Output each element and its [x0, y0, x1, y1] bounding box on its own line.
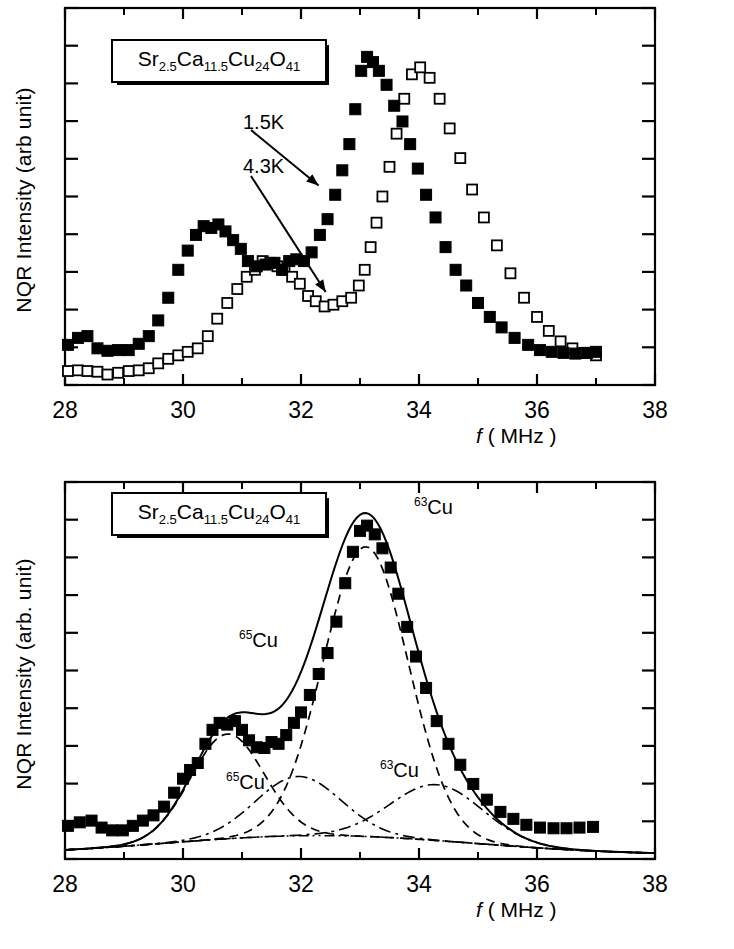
axis-frame-bottom [65, 482, 655, 859]
data-point-filled [74, 817, 85, 828]
data-point-filled [173, 264, 184, 275]
panel-bottom: NQR Intensity (arb. unit) 283032343638 S… [0, 474, 734, 944]
data-point-open [385, 162, 395, 172]
x-tick-label: 30 [170, 397, 196, 423]
x-tick-labels-top: 283032343638 [52, 397, 668, 423]
x-tick-label: 32 [288, 397, 314, 423]
data-point-open [392, 129, 402, 139]
data-point-open [73, 365, 83, 375]
data-point-open [63, 366, 73, 376]
data-point-filled [389, 100, 400, 111]
data-point-filled [192, 758, 203, 769]
x-tick-label: 36 [524, 871, 550, 897]
data-point-open [144, 363, 154, 373]
data-point-filled [322, 648, 333, 659]
data-point-filled [588, 821, 599, 832]
sample-formula-bottom: Sr2.5Ca11.5Cu24O41 [138, 500, 300, 527]
data-point-filled [296, 707, 307, 718]
data-point-open [92, 367, 102, 377]
data-point-filled [421, 682, 432, 693]
data-point-filled [340, 578, 351, 589]
data-point-filled [117, 825, 128, 836]
data-point-open [544, 326, 554, 336]
data-point-filled [455, 759, 466, 770]
x-tick-label: 34 [406, 397, 432, 423]
data-point-open [203, 331, 213, 341]
data-point-filled [82, 331, 93, 342]
data-point-open [183, 347, 193, 357]
data-point-open [295, 279, 305, 289]
data-point-filled [237, 724, 248, 735]
x-axis-label-top: f ( MHz ) [476, 424, 557, 448]
data-point-filled [509, 332, 520, 343]
data-point-filled [281, 730, 292, 741]
data-point-filled [574, 822, 585, 833]
data-point-filled [558, 347, 569, 358]
x-axis-label-bottom: f ( MHz ) [476, 898, 557, 922]
data-point-filled [473, 297, 484, 308]
data-point-open [82, 366, 92, 376]
data-point-filled [523, 339, 534, 350]
data-point-filled [369, 529, 380, 540]
data-point-filled [200, 738, 211, 749]
x-tick-label: 28 [52, 871, 78, 897]
data-point-filled [330, 189, 341, 200]
data-point-open [519, 293, 529, 303]
data-point-filled [443, 738, 454, 749]
data-point-filled [86, 815, 97, 826]
data-point-filled [322, 214, 333, 225]
data-point-filled [450, 264, 461, 275]
data-point-open [134, 365, 144, 375]
data-point-open [102, 370, 112, 380]
label-cu63-broad: 63Cu [380, 758, 419, 782]
x-tick-label: 38 [642, 871, 668, 897]
fit-total [65, 513, 655, 853]
y-axis-label-bottom: NQR Intensity (arb. unit) [2, 474, 46, 874]
data-point-filled [153, 315, 164, 326]
sample-label-box-bottom: Sr2.5Ca11.5Cu24O41 [111, 492, 327, 536]
label-cu65-broad: 65Cu [226, 770, 265, 794]
data-point-filled [288, 717, 299, 728]
data-point-open [193, 343, 203, 353]
nqr-spectra-figure: NQR Intensity (arb unit) 283032343638 Sr… [0, 0, 734, 949]
data-point-filled [431, 716, 442, 727]
data-point-filled [163, 292, 174, 303]
data-point-filled [331, 616, 342, 627]
data-point-open [354, 281, 364, 291]
data-point-filled [397, 116, 408, 127]
data-point-open [372, 218, 382, 228]
data-point-open [163, 354, 173, 364]
fit-cu63-main [65, 547, 655, 853]
data-point-open [124, 366, 134, 376]
x-tick-label: 38 [642, 397, 668, 423]
data-point-filled [304, 689, 315, 700]
data-point-filled [107, 825, 118, 836]
panel-top: NQR Intensity (arb unit) 283032343638 Sr… [0, 0, 734, 470]
data-point-filled [521, 819, 532, 830]
data-point-filled [534, 345, 545, 356]
data-point-open [399, 94, 409, 104]
data-point-filled [546, 346, 557, 357]
data-point-open [346, 293, 356, 303]
data-point-filled [495, 806, 506, 817]
data-point-filled [347, 546, 358, 557]
data-point-filled [484, 311, 495, 322]
x-tick-label: 32 [288, 871, 314, 897]
x-tick-labels-bottom: 283032343638 [52, 871, 668, 897]
data-point-filled [411, 651, 422, 662]
data-point-filled [402, 621, 413, 632]
x-tick-label: 36 [524, 397, 550, 423]
y-axis-label-top: NQR Intensity (arb unit) [2, 0, 46, 400]
data-point-filled [377, 543, 388, 554]
data-point-filled [235, 243, 246, 254]
data-point-filled [496, 322, 507, 333]
data-point-open [492, 240, 502, 250]
axis-ticks-bottom [65, 482, 655, 859]
data-point-filled [133, 338, 144, 349]
data-point-filled [548, 823, 559, 834]
data-point-open [479, 212, 489, 222]
label-cu65-main: 65Cu [239, 628, 278, 652]
data-point-filled [468, 778, 479, 789]
data-point-filled [591, 346, 602, 357]
fit-curves-bottom [65, 513, 655, 853]
